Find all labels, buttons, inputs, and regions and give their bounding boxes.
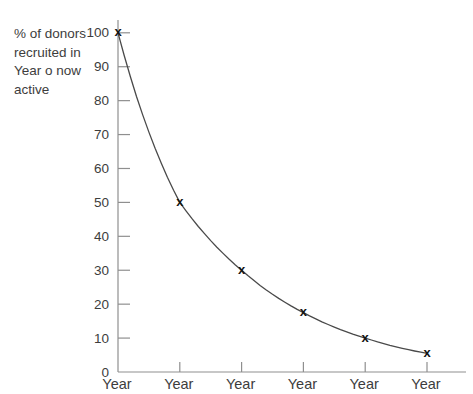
data-point-marker: x (238, 262, 246, 277)
x-axis-label: Year (102, 376, 131, 392)
x-axis-label: Year (350, 376, 379, 392)
y-tick-label: 100 (86, 25, 109, 40)
y-tick-label: 10 (94, 331, 109, 346)
chart-ylabel-line: Year o now (14, 63, 81, 78)
chart-ylabel-line: % of donors (14, 26, 86, 41)
data-point-marker: x (300, 304, 308, 319)
data-point-marker: x (114, 24, 122, 39)
y-tick-label: 60 (94, 161, 109, 176)
y-tick-label: 30 (94, 263, 109, 278)
chart-ylabel-line: recruited in (14, 45, 81, 60)
x-axis-label: Year (226, 376, 255, 392)
y-tick-label: 20 (94, 297, 109, 312)
data-point-marker: x (362, 330, 370, 345)
chart-ylabel-line: active (14, 82, 49, 97)
y-tick-label: 40 (94, 229, 109, 244)
y-tick-label: 80 (94, 93, 109, 108)
data-point-marker: x (423, 345, 431, 360)
y-tick-label: 50 (94, 195, 109, 210)
donor-attrition-chart: 0102030405060708090100YearYearYearYearYe… (0, 0, 473, 394)
data-point-marker: x (176, 194, 184, 209)
x-axis-label: Year (411, 376, 440, 392)
y-tick-label: 90 (94, 59, 109, 74)
x-axis-label: Year (288, 376, 317, 392)
y-tick-label: 70 (94, 127, 109, 142)
attrition-curve (118, 33, 427, 354)
donor-attrition-figure: 0102030405060708090100YearYearYearYearYe… (0, 0, 473, 394)
x-axis-label: Year (164, 376, 193, 392)
